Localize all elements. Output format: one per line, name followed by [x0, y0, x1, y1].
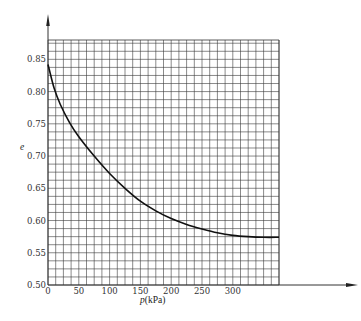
y-tick-label: 0.85 [27, 54, 46, 64]
y-axis-arrow-icon [46, 14, 50, 26]
y-axis-label: e [20, 142, 24, 152]
y-tick-label: 0.55 [27, 248, 46, 258]
y-tick-label: 0.65 [27, 183, 46, 193]
grid [48, 40, 279, 285]
x-axis-label: p(kPa) [139, 295, 165, 306]
y-tick-label: 0.60 [27, 216, 46, 226]
y-tick-label: 0.75 [27, 119, 46, 129]
x-tick-label: 0 [45, 286, 50, 296]
x-tick-label: 300 [225, 286, 241, 296]
y-tick-labels: 0.500.550.600.650.700.750.800.85 [27, 54, 46, 290]
x-axis-arrow-icon [346, 283, 358, 287]
x-axis-label-unit: (kPa) [145, 295, 166, 306]
y-tick-label: 0.80 [27, 87, 46, 97]
y-tick-label: 0.70 [27, 151, 46, 161]
x-tick-label: 100 [101, 286, 117, 296]
e-p-chart: 0.500.550.600.650.700.750.800.85 0501001… [0, 0, 361, 321]
x-tick-label: 50 [73, 286, 84, 296]
x-tick-label: 200 [163, 286, 179, 296]
x-tick-label: 250 [194, 286, 210, 296]
y-tick-label: 0.50 [27, 280, 46, 290]
